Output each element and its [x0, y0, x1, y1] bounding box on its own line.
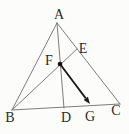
geometry-diagram: A B C D E F G	[0, 0, 129, 134]
label-E: E	[79, 41, 88, 56]
label-F: F	[45, 53, 53, 68]
label-C: C	[111, 103, 120, 118]
label-G: G	[85, 109, 95, 124]
triangle-figure: A B C D E F G	[0, 0, 129, 134]
label-D: D	[61, 110, 71, 125]
label-A: A	[54, 7, 65, 22]
label-B: B	[5, 110, 14, 125]
point-F-dot	[58, 62, 63, 67]
